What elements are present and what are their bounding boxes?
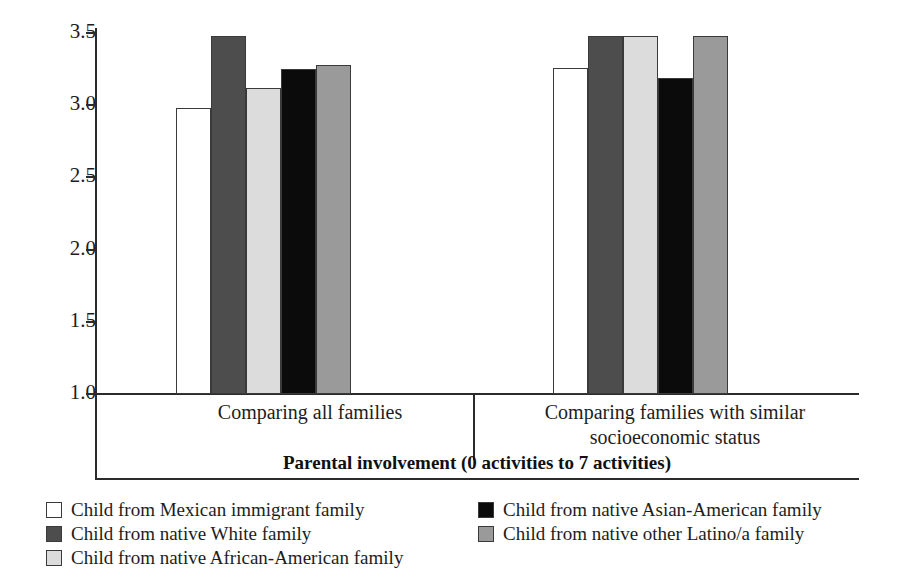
y-axis-tick-label: 2.5 (18, 165, 96, 186)
plot-area (96, 33, 858, 394)
legend-swatch (478, 502, 494, 518)
bar (281, 69, 316, 394)
y-axis-tick-label: 3.0 (18, 93, 96, 114)
category-label-0: Comparing all families (150, 400, 470, 425)
legend-item: Child from native Asian-American family (478, 498, 898, 521)
legend-swatch (46, 502, 62, 518)
legend-label: Child from native African-American famil… (71, 547, 403, 568)
bar (176, 108, 211, 394)
bar (693, 36, 728, 394)
bar (211, 36, 246, 394)
y-axis-tick: 1.0 (0, 393, 96, 395)
bar (623, 36, 658, 394)
bar (658, 78, 693, 394)
legend-item: Child from native African-American famil… (46, 546, 476, 569)
legend-swatch (46, 550, 62, 566)
y-axis-tick-label: 3.5 (18, 21, 96, 42)
y-axis-tick: 2.0 (0, 249, 96, 251)
bar (553, 68, 588, 394)
bar (588, 36, 623, 394)
legend-column-left: Child from Mexican immigrant familyChild… (46, 498, 476, 570)
legend: Child from Mexican immigrant familyChild… (46, 498, 886, 568)
legend-label: Child from native White family (71, 523, 311, 544)
bar (316, 65, 351, 394)
y-axis-tick-label: 2.0 (18, 238, 96, 259)
y-axis-tick-label: 1.0 (18, 382, 96, 403)
legend-swatch (46, 526, 62, 542)
group-separator-line (473, 394, 475, 460)
x-axis-title: Parental involvement (0 activities to 7 … (96, 452, 858, 474)
y-axis-tick: 3.0 (0, 104, 96, 106)
legend-label: Child from native Asian-American family (503, 499, 822, 520)
legend-item: Child from native other Latino/a family (478, 522, 898, 545)
legend-item: Child from Mexican immigrant family (46, 498, 476, 521)
legend-label: Child from native other Latino/a family (503, 523, 804, 544)
legend-column-right: Child from native Asian-American familyC… (478, 498, 898, 546)
category-label-1: Comparing families with similar socioeco… (490, 400, 860, 450)
y-axis-tick: 1.5 (0, 321, 96, 323)
y-axis-tick-label: 1.5 (18, 310, 96, 331)
legend-label: Child from Mexican immigrant family (71, 499, 364, 520)
y-axis-tick: 2.5 (0, 176, 96, 178)
bar (246, 88, 281, 394)
legend-swatch (478, 526, 494, 542)
bar-chart: 3.53.02.52.01.51.0 Comparing all familie… (0, 0, 898, 570)
x-axis-bottom-rule (95, 478, 859, 480)
y-axis-tick: 3.5 (0, 32, 96, 34)
legend-item: Child from native White family (46, 522, 476, 545)
